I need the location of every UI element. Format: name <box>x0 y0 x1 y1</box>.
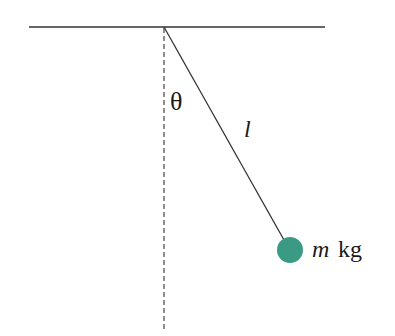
pendulum-bob <box>277 237 303 263</box>
mass-unit-label: kg <box>338 236 362 262</box>
mass-variable-label: m <box>312 236 329 262</box>
pendulum-string <box>164 27 284 240</box>
pendulum-diagram: θ l m kg <box>0 0 395 336</box>
angle-label: θ <box>170 87 182 116</box>
length-label: l <box>244 116 251 142</box>
